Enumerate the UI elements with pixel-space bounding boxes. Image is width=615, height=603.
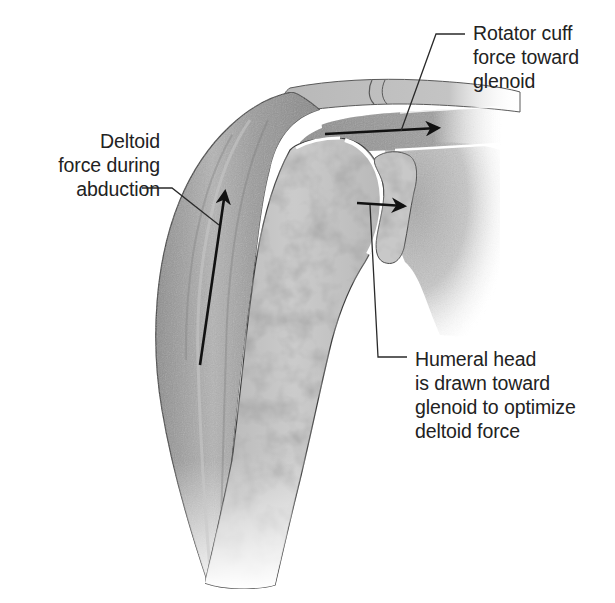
rotator-cuff-label-line-1: Rotator cuff [473,21,579,45]
rotator-cuff-label-line-2: force toward [473,45,579,69]
humeral-head-label-line-2: is drawn toward [415,371,576,395]
deltoid-label: Deltoid force during abduction [48,129,160,201]
deltoid-label-line-1: Deltoid [48,129,160,153]
humeral-head-label-line-4: deltoid force [415,419,576,443]
humeral-head-label: Humeral head is drawn toward glenoid to … [415,347,576,443]
deltoid-label-line-3: abduction [48,177,160,201]
deltoid-label-line-2: force during [48,153,160,177]
humeral-head-label-line-3: glenoid to optimize [415,395,576,419]
rotator-cuff-label: Rotator cuff force toward glenoid [473,21,579,93]
rotator-cuff-label-line-3: glenoid [473,69,579,93]
shoulder-diagram: Rotator cuff force toward glenoid Deltoi… [0,0,615,603]
humeral-head-label-line-1: Humeral head [415,347,576,371]
